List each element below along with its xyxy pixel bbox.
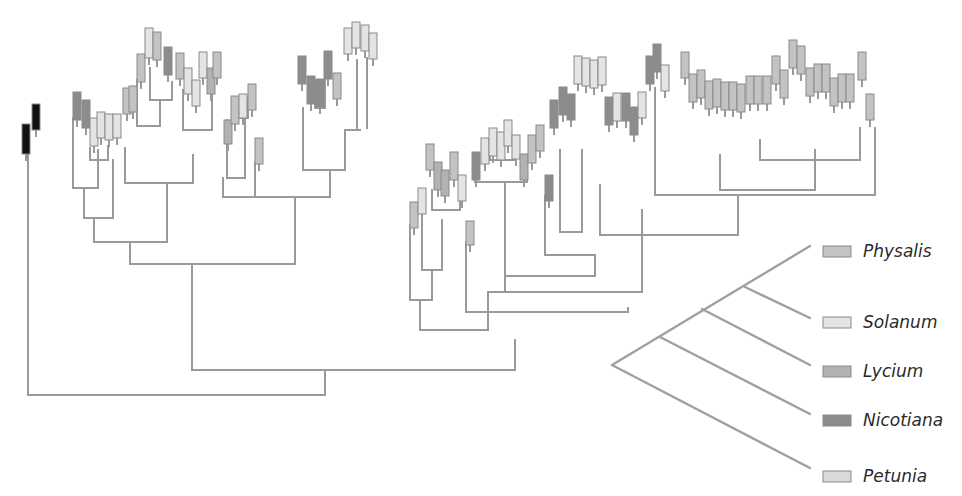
tip-physalis — [129, 86, 137, 112]
tip-nicotiana — [630, 107, 638, 135]
tip-solanum — [638, 92, 646, 118]
tip-solanum — [369, 33, 377, 59]
tip-physalis — [176, 53, 184, 79]
tip-physalis — [746, 76, 754, 104]
tip-physalis — [713, 79, 721, 107]
tip-physalis — [248, 84, 256, 110]
tip-physalis — [153, 32, 161, 60]
legend-item-lycium: Lycium — [823, 361, 923, 381]
legend-item-nicotiana: Nicotiana — [823, 410, 943, 430]
tip-physalis — [814, 64, 822, 92]
tip-nicotiana — [567, 94, 575, 120]
tip-lycium — [520, 154, 528, 180]
tip-nicotiana — [73, 92, 81, 120]
tip-physalis — [697, 70, 705, 98]
tip-physalis — [806, 68, 814, 96]
tip-solanum — [512, 135, 520, 159]
legend-item-solanum: Solanum — [823, 312, 937, 332]
genus-legend: PhysalisSolanumLyciumNicotianaPetunia — [823, 241, 943, 486]
tip-physalis — [466, 221, 474, 245]
tree-branches — [28, 58, 875, 395]
tip-solanum — [598, 57, 606, 85]
tip-physalis — [410, 202, 418, 228]
tip-physalis — [721, 82, 729, 110]
tip-solanum — [192, 80, 200, 106]
tip-solanum — [105, 114, 113, 140]
tree-tips — [22, 22, 874, 251]
tip-physalis — [830, 78, 838, 106]
tip-physalis — [137, 54, 145, 82]
tip-solanum — [184, 68, 192, 94]
tip-physalis — [426, 144, 434, 170]
tip-solanum — [113, 114, 121, 138]
tip-physalis — [822, 64, 830, 92]
legend-swatch — [823, 366, 851, 377]
legend-swatch — [823, 246, 851, 257]
tip-lycium — [441, 170, 449, 196]
tip-physalis — [789, 40, 797, 68]
tip-physalis — [797, 46, 805, 74]
tip-nicotiana — [605, 97, 613, 125]
tip-outgroup — [32, 104, 40, 130]
legend-label: Lycium — [863, 361, 923, 381]
tip-physalis — [705, 81, 713, 109]
tip-physalis — [450, 152, 458, 180]
cladogram-branch — [745, 287, 810, 318]
tip-nicotiana — [545, 175, 553, 201]
tip-solanum — [344, 28, 352, 54]
tip-nicotiana — [472, 152, 480, 180]
tip-outgroup — [22, 124, 30, 154]
tip-solanum — [481, 138, 489, 164]
tip-solanum — [418, 188, 426, 214]
tip-nicotiana — [316, 79, 324, 107]
legend-label: Physalis — [863, 241, 932, 261]
tip-solanum — [613, 93, 621, 121]
tip-physalis — [866, 94, 874, 120]
tip-nicotiana — [324, 51, 332, 79]
tip-physalis — [333, 73, 341, 99]
tip-nicotiana — [559, 87, 567, 115]
tip-physalis — [858, 52, 866, 80]
tip-physalis — [754, 76, 762, 104]
cladogram-branch — [612, 365, 810, 468]
tip-physalis — [213, 52, 221, 78]
tip-solanum — [590, 60, 598, 88]
tip-solanum — [504, 120, 512, 146]
tip-nicotiana — [550, 100, 558, 128]
tip-physalis — [846, 74, 854, 102]
tip-solanum — [352, 22, 360, 48]
tip-physalis — [763, 76, 771, 104]
tip-nicotiana — [298, 56, 306, 84]
tip-solanum — [458, 175, 466, 201]
tip-physalis — [231, 96, 239, 124]
tip-physalis — [681, 52, 689, 78]
tip-solanum — [574, 56, 582, 84]
tip-physalis — [729, 82, 737, 110]
legend-item-physalis: Physalis — [823, 241, 932, 261]
tip-physalis — [536, 125, 544, 151]
legend-swatch — [823, 317, 851, 328]
tip-nicotiana — [82, 100, 90, 128]
legend-label: Solanum — [863, 312, 937, 332]
legend-item-petunia: Petunia — [823, 466, 927, 486]
tip-nicotiana — [164, 47, 172, 75]
tip-solanum — [661, 65, 669, 91]
legend-label: Petunia — [863, 466, 927, 486]
tip-solanum — [239, 94, 247, 118]
tip-physalis — [772, 56, 780, 84]
tip-physalis — [737, 84, 745, 112]
legend-swatch — [823, 471, 851, 482]
tip-physalis — [689, 74, 697, 102]
legend-swatch — [823, 415, 851, 426]
phylogenetic-tree: PhysalisSolanumLyciumNicotianaPetunia — [0, 0, 962, 496]
tip-solanum — [145, 28, 153, 58]
tip-solanum — [582, 58, 590, 86]
tip-solanum — [361, 25, 369, 51]
cladogram-branch — [702, 309, 810, 365]
tip-solanum — [489, 128, 497, 156]
tip-solanum — [199, 52, 207, 78]
tip-physalis — [255, 138, 263, 164]
tip-nicotiana — [622, 93, 630, 121]
tip-physalis — [838, 74, 846, 102]
tip-nicotiana — [653, 44, 661, 72]
